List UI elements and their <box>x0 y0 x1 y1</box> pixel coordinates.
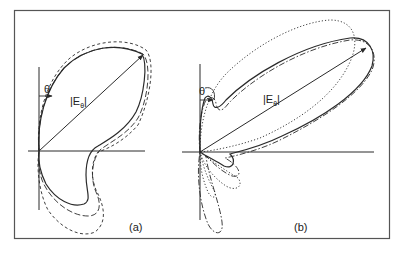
panel-a-magnitude-label: |Eθ| <box>70 96 87 109</box>
panel-a-caption: (a) <box>129 222 142 233</box>
theta-symbol: θ <box>199 85 205 97</box>
magnitude-prefix: |E <box>70 95 80 107</box>
panel-a-theta-label: θ <box>44 84 50 95</box>
magnitude-suffix: | <box>84 95 87 107</box>
caption-text: (b) <box>294 221 307 233</box>
caption-text: (a) <box>129 221 142 233</box>
theta-symbol: θ <box>44 83 50 95</box>
magnitude-prefix: |E <box>263 93 273 105</box>
panel-a-magnitude-arrow <box>39 55 143 151</box>
panel-b-theta-label: θ <box>199 86 205 97</box>
panel-b <box>182 20 374 233</box>
panel-a-solid-curve <box>39 47 145 205</box>
panel-a <box>28 42 151 234</box>
panel-b-caption: (b) <box>294 222 307 233</box>
panel-a-short-dash-curve <box>38 42 151 234</box>
radiation-pattern-figure <box>0 0 402 256</box>
panel-b-dotted-curve <box>200 20 355 152</box>
magnitude-suffix: | <box>277 93 280 105</box>
panel-b-solid-curve <box>200 38 373 167</box>
panel-b-magnitude-label: |Eθ| <box>263 94 280 107</box>
panel-b-dotted-sidelobe <box>200 152 240 197</box>
